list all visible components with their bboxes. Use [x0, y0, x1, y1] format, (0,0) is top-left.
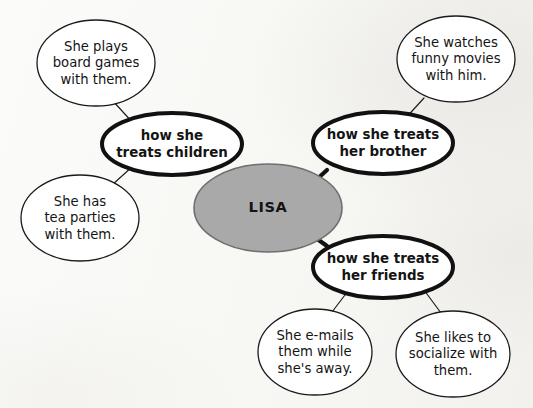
branch-node-label-line: treats children — [116, 145, 228, 160]
center-node-layer: LISA — [194, 164, 342, 252]
leaf-node-label-line: She likes to — [415, 330, 491, 345]
leaf-node-label-line: She has — [54, 194, 106, 209]
leaf-node-emails[interactable]: She e-mailsthem whileshe's away. — [258, 309, 372, 395]
mind-map-svg: She playsboard gameswith them.She hastea… — [0, 0, 533, 408]
leaf-node-tea-parties[interactable]: She hastea partieswith them. — [21, 175, 139, 261]
leaf-node-board-games[interactable]: She playsboard gameswith them. — [37, 20, 155, 106]
leaf-node-label-line: with him. — [425, 68, 486, 83]
leaf-node-funny-movies[interactable]: She watchesfunny movieswith him. — [397, 16, 515, 102]
branch-node-label-line: how she treats — [327, 127, 440, 142]
leaf-node-label-line: She e-mails — [276, 328, 353, 343]
leaf-node-label-line: tea parties — [44, 210, 115, 225]
leaf-node-label-line: She watches — [414, 35, 498, 50]
branch-node-brother[interactable]: how she treatsher brother — [313, 112, 453, 174]
leaf-node-label-line: with them. — [61, 72, 132, 87]
branch-node-friends[interactable]: how she treatsher friends — [313, 236, 453, 298]
leaf-node-label-line: She plays — [64, 39, 128, 54]
connector-friends-socialize — [424, 290, 441, 313]
leaf-node-socialize[interactable]: She likes tosocialize withthem. — [396, 311, 510, 397]
center-node-lisa[interactable]: LISA — [194, 164, 342, 252]
branch-node-children[interactable]: how shetreats children — [102, 113, 242, 175]
branch-node-label-line: how she — [141, 128, 203, 143]
diagram-canvas: She playsboard gameswith them.She hastea… — [0, 0, 533, 408]
leaf-node-label-line: funny movies — [411, 51, 500, 66]
leaf-node-label-line: socialize with — [409, 346, 497, 361]
branch-node-label-line: how she treats — [327, 251, 440, 266]
branch-node-label-line: her friends — [341, 268, 424, 283]
leaf-node-label-line: with them. — [45, 227, 116, 242]
leaf-node-label-line: them. — [434, 363, 473, 378]
leaf-node-label-line: she's away. — [277, 361, 352, 376]
leaf-node-label-line: them while — [278, 344, 351, 359]
center-node-label-line: LISA — [249, 198, 288, 215]
branch-node-label-line: her brother — [340, 144, 427, 159]
leaf-node-label-line: board games — [53, 55, 140, 70]
